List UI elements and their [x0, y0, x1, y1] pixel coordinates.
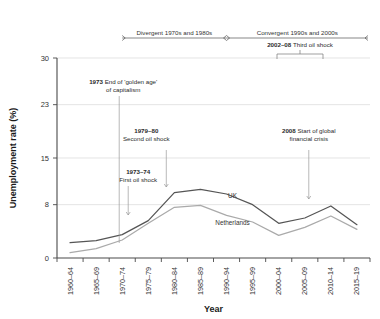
era-arrow-right2-1: [365, 38, 368, 41]
annotation-second-oil-shock-line1: 1979–80: [134, 127, 159, 134]
chart-canvas: 081523301960–641965–691970–741975–791980…: [0, 0, 380, 319]
xtick-label-8: 2000–04: [274, 267, 283, 295]
ytick-label-23: 23: [41, 100, 49, 109]
era-arrow-left-0: [122, 36, 125, 39]
era-arrow-left2-0: [122, 38, 125, 41]
series-label-netherlands: Netherlands: [215, 219, 249, 226]
xtick-label-6: 1990–94: [222, 267, 231, 295]
ytick-label-15: 15: [41, 154, 49, 163]
xtick-label-5: 1985–89: [196, 267, 205, 295]
era-label-1: Convergent 1990s and 2000s: [257, 29, 338, 36]
series-line-netherlands: [70, 205, 357, 252]
annotation-golden-age-line1: 1973 End of 'golden age': [89, 78, 157, 85]
era-arrow-left-1: [227, 36, 230, 39]
era-arrow-right2-0: [224, 38, 227, 41]
xtick-label-0: 1960–64: [66, 267, 75, 295]
xtick-label-9: 2005–09: [300, 267, 309, 295]
xtick-label-3: 1975–79: [144, 267, 153, 295]
ytick-label-30: 30: [41, 54, 49, 63]
era-label-0: Divergent 1970s and 1980s: [137, 29, 213, 36]
ytick-label-0: 0: [45, 254, 49, 263]
ytick-label-8: 8: [45, 200, 49, 209]
annotation-first-oil-shock-line1: 1973–74: [126, 168, 151, 175]
annotation-first-oil-shock-line2: First oil shock: [119, 176, 158, 183]
era-arrow-right-0: [224, 36, 227, 39]
annotation-financial-crisis-line2: financial crisis: [290, 135, 329, 142]
y-axis-title: Unemployment rate (%): [8, 108, 18, 209]
xtick-label-11: 2015–19: [352, 267, 361, 295]
annotation-second-oil-shock-line2: Second oil shock: [123, 135, 171, 142]
x-axis-title: Year: [204, 304, 224, 314]
annotation-golden-age-line2: of capitalism: [106, 86, 140, 93]
unemployment-rate-chart: 081523301960–641965–691970–741975–791980…: [0, 0, 380, 319]
annotation-financial-crisis-line1: 2008 Start of global: [282, 127, 336, 134]
era-arrow-right-1: [365, 36, 368, 39]
xtick-label-10: 2010–14: [326, 267, 335, 295]
series-line-uk: [70, 189, 357, 242]
xtick-label-2: 1970–74: [118, 267, 127, 295]
era-arrow-left2-1: [227, 38, 230, 41]
xtick-label-4: 1980–84: [170, 267, 179, 295]
xtick-label-1: 1965–69: [92, 267, 101, 295]
series-label-uk: UK: [228, 192, 238, 199]
xtick-label-7: 1995–99: [248, 267, 257, 295]
annotation-third-oil-shock-label: 2002–08 Third oil shock: [267, 41, 334, 48]
